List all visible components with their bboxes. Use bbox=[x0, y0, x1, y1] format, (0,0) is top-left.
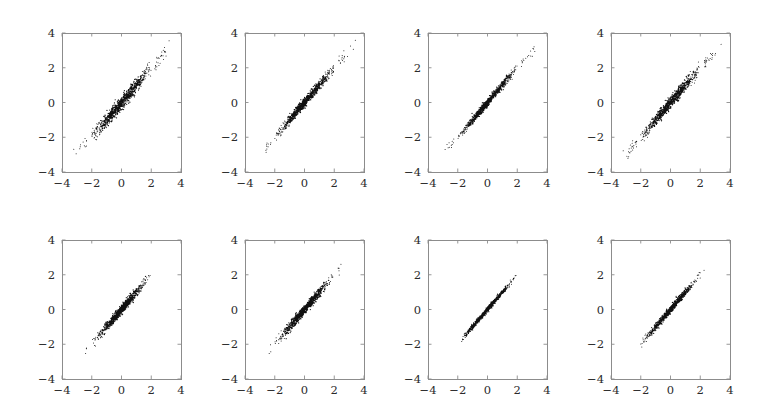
y-tick-label: −2 bbox=[38, 337, 55, 351]
x-tick-label: −2 bbox=[632, 176, 649, 190]
y-tick-label: −2 bbox=[404, 130, 421, 144]
x-tick-label: 4 bbox=[360, 383, 367, 397]
x-tick-label: −4 bbox=[237, 176, 254, 190]
x-tick-label: 0 bbox=[667, 176, 674, 190]
plot-area-3: −4−2024−4−2024 bbox=[577, 23, 742, 198]
y-tick-label: 2 bbox=[414, 268, 421, 282]
plot-area-6: −4−2024−4−2024 bbox=[394, 230, 559, 405]
y-tick-label: 2 bbox=[231, 61, 238, 75]
x-tick-label: 4 bbox=[543, 383, 550, 397]
y-tick-label: 0 bbox=[231, 303, 238, 317]
x-tick-label: −2 bbox=[266, 176, 283, 190]
x-tick-label: 0 bbox=[301, 176, 308, 190]
scatter-panel-3: −4−2024−4−2024 bbox=[577, 23, 742, 198]
y-tick-label: 2 bbox=[48, 61, 55, 75]
y-tick-label: −4 bbox=[587, 165, 604, 179]
x-tick-label: −4 bbox=[603, 176, 620, 190]
scatter-panel-6: −4−2024−4−2024 bbox=[394, 230, 559, 405]
y-tick-label: −2 bbox=[221, 130, 238, 144]
x-tick-label: 2 bbox=[331, 383, 338, 397]
plot-area-7: −4−2024−4−2024 bbox=[577, 230, 742, 405]
x-tick-label: −4 bbox=[420, 383, 437, 397]
x-tick-label: 2 bbox=[148, 176, 155, 190]
y-tick-label: −2 bbox=[587, 130, 604, 144]
x-tick-label: 0 bbox=[118, 383, 125, 397]
x-tick-label: 0 bbox=[301, 383, 308, 397]
scatter-panel-1: −4−2024−4−2024 bbox=[211, 23, 376, 198]
x-tick-label: 2 bbox=[697, 176, 704, 190]
x-tick-label: 4 bbox=[726, 383, 733, 397]
x-tick-label: 2 bbox=[148, 383, 155, 397]
x-tick-label: 4 bbox=[726, 176, 733, 190]
y-tick-label: −4 bbox=[38, 372, 55, 386]
plot-area-5: −4−2024−4−2024 bbox=[211, 230, 376, 405]
y-tick-label: −4 bbox=[404, 372, 421, 386]
x-tick-label: −4 bbox=[420, 176, 437, 190]
plot-area-1: −4−2024−4−2024 bbox=[211, 23, 376, 198]
x-tick-label: −2 bbox=[83, 176, 100, 190]
y-tick-label: 0 bbox=[48, 303, 55, 317]
scatter-panel-7: −4−2024−4−2024 bbox=[577, 230, 742, 405]
x-tick-label: −2 bbox=[83, 383, 100, 397]
y-tick-label: 0 bbox=[48, 96, 55, 110]
scatter-panel-2: −4−2024−4−2024 bbox=[394, 23, 559, 198]
scatter-panel-5: −4−2024−4−2024 bbox=[211, 230, 376, 405]
x-tick-label: −2 bbox=[449, 383, 466, 397]
y-tick-label: −2 bbox=[404, 337, 421, 351]
y-tick-label: 0 bbox=[414, 303, 421, 317]
y-tick-label: 4 bbox=[597, 26, 604, 40]
plot-area-0: −4−2024−4−2024 bbox=[28, 23, 193, 198]
x-tick-label: 2 bbox=[331, 176, 338, 190]
x-tick-label: −4 bbox=[54, 383, 71, 397]
y-tick-label: 2 bbox=[48, 268, 55, 282]
y-tick-label: −4 bbox=[221, 372, 238, 386]
x-tick-label: −2 bbox=[266, 383, 283, 397]
x-tick-label: 0 bbox=[484, 383, 491, 397]
y-tick-label: 4 bbox=[597, 233, 604, 247]
x-tick-label: −4 bbox=[54, 176, 71, 190]
y-tick-label: 0 bbox=[597, 303, 604, 317]
x-tick-label: −4 bbox=[603, 383, 620, 397]
scatter-panel-4: −4−2024−4−2024 bbox=[28, 230, 193, 405]
scatter-matrix-figure: −4−2024−4−2024−4−2024−4−2024−4−2024−4−20… bbox=[0, 0, 784, 411]
y-tick-label: 4 bbox=[48, 26, 55, 40]
scatter-panel-0: −4−2024−4−2024 bbox=[28, 23, 193, 198]
x-tick-label: 4 bbox=[360, 176, 367, 190]
x-tick-label: 2 bbox=[514, 383, 521, 397]
y-tick-label: 4 bbox=[231, 26, 238, 40]
y-tick-label: 0 bbox=[231, 96, 238, 110]
x-tick-label: 2 bbox=[514, 176, 521, 190]
x-tick-label: 4 bbox=[177, 176, 184, 190]
y-tick-label: 4 bbox=[414, 233, 421, 247]
y-tick-label: 2 bbox=[597, 61, 604, 75]
y-tick-label: −4 bbox=[404, 165, 421, 179]
y-tick-label: −2 bbox=[38, 130, 55, 144]
y-tick-label: 2 bbox=[414, 61, 421, 75]
x-tick-label: 4 bbox=[177, 383, 184, 397]
y-tick-label: 0 bbox=[597, 96, 604, 110]
x-tick-label: −4 bbox=[237, 383, 254, 397]
y-tick-label: −4 bbox=[221, 165, 238, 179]
plot-area-4: −4−2024−4−2024 bbox=[28, 230, 193, 405]
x-tick-label: −2 bbox=[632, 383, 649, 397]
y-tick-label: 4 bbox=[48, 233, 55, 247]
x-tick-label: 0 bbox=[118, 176, 125, 190]
y-tick-label: 2 bbox=[231, 268, 238, 282]
x-tick-label: 2 bbox=[697, 383, 704, 397]
x-tick-label: 4 bbox=[543, 176, 550, 190]
plot-area-2: −4−2024−4−2024 bbox=[394, 23, 559, 198]
y-tick-label: −2 bbox=[587, 337, 604, 351]
y-tick-label: 4 bbox=[414, 26, 421, 40]
y-tick-label: 0 bbox=[414, 96, 421, 110]
y-tick-label: 2 bbox=[597, 268, 604, 282]
x-tick-label: 0 bbox=[667, 383, 674, 397]
y-tick-label: −4 bbox=[38, 165, 55, 179]
x-tick-label: 0 bbox=[484, 176, 491, 190]
y-tick-label: −4 bbox=[587, 372, 604, 386]
y-tick-label: 4 bbox=[231, 233, 238, 247]
x-tick-label: −2 bbox=[449, 176, 466, 190]
y-tick-label: −2 bbox=[221, 337, 238, 351]
